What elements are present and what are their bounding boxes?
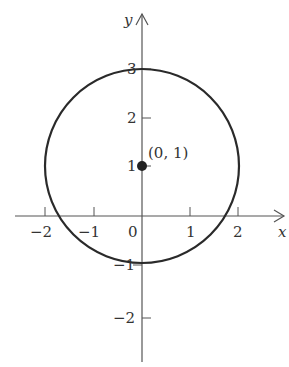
center-point [137,161,147,171]
y-tick-label-3: 3 [127,60,137,78]
y-tick-label-2: 2 [127,109,137,127]
x-tick-label-1: 1 [186,223,196,241]
x-tick-label-neg2: −2 [30,223,52,241]
y-tick-label-1: 1 [127,157,137,175]
x-tick-label-2: 2 [233,223,243,241]
y-tick-label-neg1: −1 [113,256,135,274]
y-tick-label-neg2: −2 [113,309,135,327]
x-axis-label: x [278,223,287,241]
center-point-label: (0, 1) [148,144,188,162]
origin-label: 0 [128,223,138,241]
y-axis-label: y [123,11,133,29]
x-tick-label-neg1: −1 [78,223,100,241]
diagram-canvas: y x 0 −2 −1 1 2 3 2 1 −1 −2 (0, 1) [0,0,289,367]
